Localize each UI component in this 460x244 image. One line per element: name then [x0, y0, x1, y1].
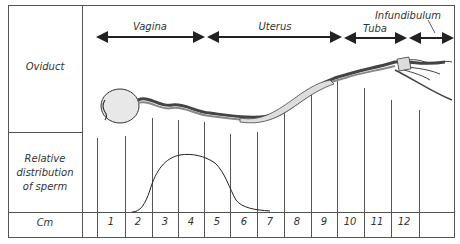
region-arrows: [98, 37, 452, 38]
diagram-drawing: [0, 0, 460, 244]
oviduct-illustration: [101, 57, 452, 123]
sperm-distribution-curve: [132, 154, 270, 212]
infundibulum-pointer: [428, 20, 435, 33]
